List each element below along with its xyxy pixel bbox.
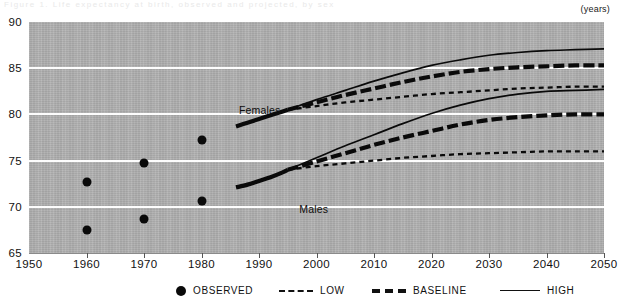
series-label-males: Males — [299, 203, 328, 215]
x-axis-tick-label: 1960 — [73, 258, 100, 270]
x-axis-tick-label: 1970 — [131, 258, 158, 270]
historical-line — [236, 170, 288, 188]
observed-data-point — [82, 177, 91, 186]
y-axis-tick-label: 85 — [9, 62, 22, 74]
legend-item-observed: OBSERVED — [176, 278, 253, 303]
baseline-line-icon — [372, 289, 406, 293]
series-label-females: Females — [239, 104, 281, 116]
x-axis-tick — [144, 253, 145, 258]
x-axis-tick-label: 2000 — [303, 258, 330, 270]
figure-container: Figure 1. Life expectancy at birth, obse… — [0, 0, 618, 303]
x-axis-tick — [374, 253, 375, 258]
observed-marker-icon — [176, 286, 186, 296]
observed-data-point — [197, 136, 206, 145]
x-axis-labels: 1950196019701980199020002010202020302040… — [0, 258, 618, 278]
x-axis-tick — [259, 253, 260, 258]
figure-title: Figure 1. Life expectancy at birth, obse… — [4, 0, 564, 9]
x-axis-tick — [547, 253, 548, 258]
x-axis-tick-label: 2030 — [476, 258, 503, 270]
y-axis-tick-label: 90 — [9, 16, 22, 28]
x-axis-tick — [202, 253, 203, 258]
legend-label-observed: OBSERVED — [193, 285, 253, 296]
x-axis-tick-label: 2040 — [533, 258, 560, 270]
y-axis-tick-label: 75 — [9, 155, 22, 167]
legend-item-baseline: BASELINE — [372, 278, 467, 303]
x-axis-tick-label: 2010 — [361, 258, 388, 270]
series-curves — [29, 22, 604, 253]
x-axis-tick — [489, 253, 490, 258]
plot-area: FemalesMales — [29, 22, 604, 253]
y-axis-unit-label: (years) — [581, 4, 610, 14]
legend-label-low: LOW — [320, 285, 345, 296]
x-axis-tick — [604, 253, 605, 258]
y-axis-tick-label: 80 — [9, 108, 22, 120]
x-axis-tick — [87, 253, 88, 258]
low-line-icon — [279, 290, 313, 292]
y-axis-tick-label: 70 — [9, 201, 22, 213]
high-line-icon — [500, 290, 540, 291]
projection-line-high-females — [288, 49, 604, 110]
legend-label-high: HIGH — [547, 285, 574, 296]
x-axis-tick-label: 1980 — [188, 258, 215, 270]
projection-line-baseline-males — [288, 114, 604, 170]
x-axis-tick-label: 1950 — [16, 258, 43, 270]
observed-data-point — [140, 159, 149, 168]
x-axis-tick-label: 2020 — [418, 258, 445, 270]
observed-data-point — [140, 214, 149, 223]
observed-data-point — [82, 225, 91, 234]
x-axis-tick — [432, 253, 433, 258]
legend-label-baseline: BASELINE — [413, 285, 467, 296]
x-axis-tick-label: 1990 — [246, 258, 273, 270]
x-axis-tick-label: 2050 — [591, 258, 618, 270]
observed-data-point — [197, 197, 206, 206]
x-axis-tick — [317, 253, 318, 258]
legend-item-high: HIGH — [500, 278, 574, 303]
legend-item-low: LOW — [279, 278, 345, 303]
legend: OBSERVED LOW BASELINE HIGH — [0, 278, 618, 303]
